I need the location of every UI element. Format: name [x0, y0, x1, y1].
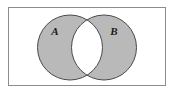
set-a-label: A	[50, 25, 58, 37]
set-b-label: B	[109, 25, 117, 37]
venn-diagram-canvas: A B	[0, 0, 174, 93]
venn-diagram-figure: A B	[0, 0, 174, 93]
